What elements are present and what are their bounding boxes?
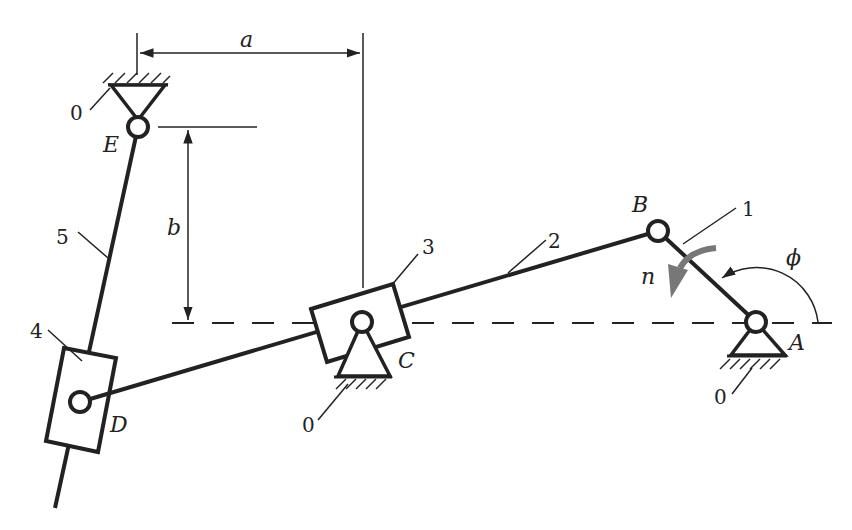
ground-a-label: 0 — [714, 385, 727, 409]
joint-e: E — [102, 117, 148, 157]
mechanism-diagram: a b 0 5 4 2 — [0, 0, 852, 530]
joint-c-label: C — [398, 348, 415, 373]
link-1-label: 1 — [742, 197, 755, 221]
angle-phi-label: ϕ — [786, 245, 801, 270]
link-3-label: 3 — [422, 235, 435, 259]
joint-d-label: D — [109, 412, 128, 437]
link-4-label: 4 — [30, 319, 43, 343]
angle-phi: ϕ — [722, 245, 818, 322]
dimension-b-label: b — [167, 215, 181, 240]
link-2-label: 2 — [548, 229, 561, 253]
joint-a-label: A — [787, 330, 805, 355]
joint-b: B — [631, 192, 668, 241]
ground-support-a: 0 — [714, 322, 787, 409]
ground-support-e: 0 — [70, 73, 170, 125]
ground-c-label: 0 — [302, 413, 315, 437]
dimension-a-label: a — [240, 27, 253, 52]
joint-b-label: B — [631, 192, 648, 217]
dimension-b: b — [158, 127, 257, 320]
ground-e-label: 0 — [70, 101, 83, 125]
link-5-label: 5 — [56, 225, 69, 249]
slider-4: 4 — [30, 319, 116, 452]
joint-e-label: E — [102, 132, 119, 157]
dimension-a: a — [137, 27, 363, 288]
rotation-n-label: n — [641, 264, 655, 289]
link-1: 1 — [658, 197, 756, 322]
